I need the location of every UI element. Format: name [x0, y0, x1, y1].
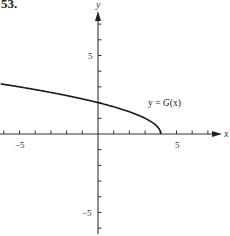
y-axis-arrow-icon	[95, 11, 101, 21]
x-axis-arrow-icon	[212, 131, 222, 137]
x-tick-label-neg5: −5	[15, 140, 25, 150]
y-tick-label-neg5: −5	[82, 208, 92, 218]
y-tick-label-5: 5	[88, 51, 93, 61]
plot-area: −5 5 5 −5 x y y = G(x)	[0, 0, 230, 236]
curve-label: y = G(x)	[148, 98, 181, 109]
curve-g-of-x	[1, 84, 161, 134]
x-tick-label-5: 5	[175, 140, 180, 150]
y-axis-label: y	[95, 0, 101, 10]
x-axis-label: x	[223, 128, 229, 139]
